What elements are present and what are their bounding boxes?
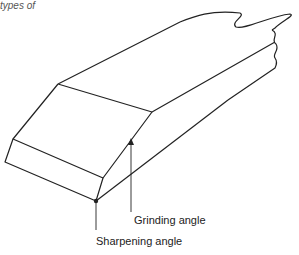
broken-edge-top: [180, 12, 291, 30]
sharpening-point-icon: [94, 199, 98, 203]
sharpening-angle-label: Sharpening angle: [96, 235, 182, 247]
grinding-angle-label: Grinding angle: [134, 214, 206, 226]
front-face: [5, 139, 103, 201]
top-face-edges: [58, 22, 275, 112]
bottom-edge: [96, 100, 228, 201]
grinding-arrow-icon: [128, 138, 134, 145]
